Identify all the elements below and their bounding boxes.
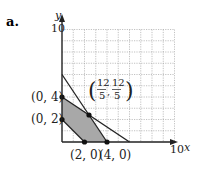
frac-y-num: 12 [112, 77, 125, 88]
label-2-0: (2, 0) [70, 148, 102, 162]
feasible-region [62, 97, 107, 142]
label-4-0: (4, 0) [99, 148, 131, 162]
frac-x-den: 5 [99, 90, 105, 101]
label-0-2: (0, 2) [31, 112, 63, 126]
y-tick-10: 10 [51, 22, 65, 35]
y-axis-label: y [55, 9, 61, 22]
label-0-4: (0, 4) [31, 90, 63, 104]
point-2-0 [82, 139, 87, 144]
x-axis-label: x [184, 141, 190, 154]
x-tick-10: 10 [170, 143, 184, 156]
point-intersection [86, 112, 91, 117]
frac-x-num: 12 [97, 77, 110, 88]
frac-y-den: 5 [114, 90, 120, 101]
point-4-0 [104, 139, 109, 144]
paren-right: ) [125, 78, 134, 103]
paren-left: ( [88, 78, 97, 103]
